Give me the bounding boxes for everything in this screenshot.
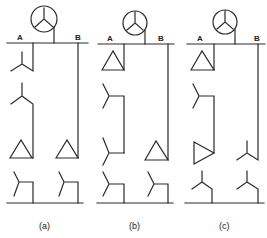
caption-c: (c) xyxy=(219,221,230,231)
wye-winding-icon xyxy=(148,172,168,203)
transformer-connection-diagram: A B (a) A B (b) xyxy=(0,0,267,238)
wye-winding-icon xyxy=(103,172,124,203)
caption-b: (b) xyxy=(129,221,140,231)
wye-winding-icon xyxy=(59,172,78,203)
bus-label-a: A xyxy=(17,33,23,42)
wye-grounded-winding-icon xyxy=(237,171,258,203)
panel-b: A B (b) xyxy=(97,11,174,231)
delta-winding-icon xyxy=(191,51,214,70)
wye-winding-icon xyxy=(14,172,33,203)
delta-winding-icon xyxy=(145,141,168,160)
generator-wye-icon xyxy=(127,12,143,30)
generator-wye-icon xyxy=(217,11,233,29)
generator-wye-icon xyxy=(35,8,53,27)
caption-a: (a) xyxy=(39,221,50,231)
bus-label-a: A xyxy=(107,34,113,43)
wye-winding-icon xyxy=(11,83,33,158)
wye-grounded-winding-icon xyxy=(192,171,212,203)
delta-winding-icon xyxy=(10,140,32,158)
bus-label-b: B xyxy=(158,34,164,43)
bus-label-b: B xyxy=(254,34,260,43)
bus-label-b: B xyxy=(75,33,81,42)
delta-winding-icon xyxy=(102,51,124,70)
wye-grounded-winding-icon xyxy=(237,44,258,160)
wye-winding-icon xyxy=(103,84,124,153)
wye-winding-icon xyxy=(11,43,33,71)
panel-a: A B (a) xyxy=(7,6,88,231)
bus-label-a: A xyxy=(197,34,203,43)
delta-winding-icon xyxy=(194,142,214,164)
delta-winding-icon xyxy=(56,140,78,158)
wye-winding-icon xyxy=(103,138,124,165)
panel-c: A B (c) xyxy=(185,10,265,231)
